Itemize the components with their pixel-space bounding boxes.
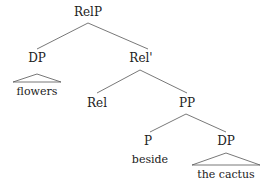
node-rel-bar: Rel'	[129, 51, 152, 65]
node-dp-object: DP	[217, 134, 235, 148]
node-p: P	[144, 134, 152, 148]
leaf-beside: beside	[132, 153, 168, 167]
leaf-the-cactus: the cactus	[197, 168, 255, 182]
node-rel: Rel	[87, 96, 107, 110]
node-dp-subject: DP	[28, 51, 46, 65]
node-pp: PP	[179, 96, 195, 110]
node-relp: RelP	[74, 5, 102, 19]
leaf-flowers: flowers	[17, 85, 58, 99]
